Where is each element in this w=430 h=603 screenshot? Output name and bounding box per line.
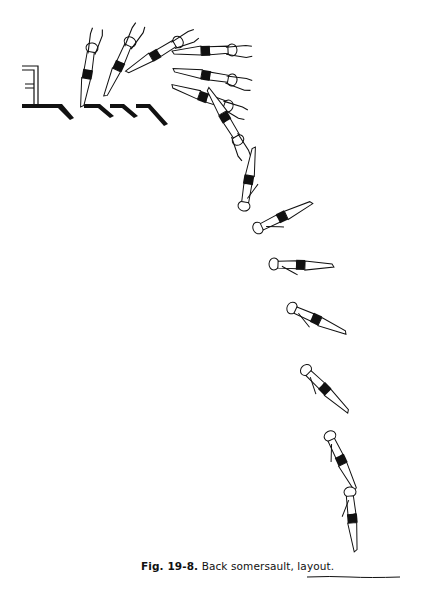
figure-title: Back somersault, layout.: [202, 560, 335, 572]
figure-number: Fig. 19-8.: [141, 560, 198, 572]
diving-board-icon: [22, 66, 168, 126]
water-surface-icon: [307, 577, 400, 578]
illustration: [0, 0, 430, 603]
diver-sequence: [76, 21, 362, 552]
figure-caption: Fig. 19-8. Back somersault, layout.: [141, 560, 334, 572]
